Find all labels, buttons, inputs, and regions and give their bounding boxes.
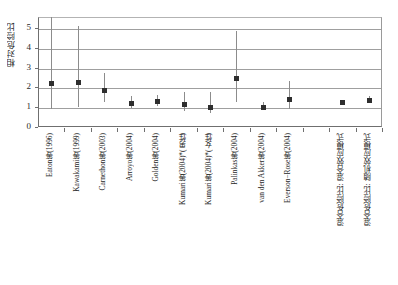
- data-point-marker: [155, 99, 160, 104]
- gridline-2: [39, 88, 381, 89]
- data-point-marker: [49, 81, 54, 86]
- data-point-marker: [182, 102, 187, 107]
- confidence-interval-bar: [236, 31, 237, 102]
- y-tick-label: 1: [17, 101, 31, 111]
- gridline-5: [39, 29, 381, 30]
- x-axis-category-label: Kumari等(2004)*(女性): [205, 133, 213, 205]
- x-axis-category-label: Golden等(2004): [152, 133, 160, 181]
- x-tick-mark: [329, 128, 330, 132]
- confidence-interval-bar: [289, 81, 290, 109]
- y-tick-mark: [35, 87, 38, 88]
- data-point-marker: [261, 105, 266, 110]
- forest-plot-chart: 相对危险比 012345 Eaton等(1996)Kawakami等(1999)…: [0, 0, 398, 285]
- x-axis-category-label: Eaton等(1996): [46, 133, 54, 177]
- x-axis-category-label: van den Akker等(2004): [258, 133, 266, 203]
- gridline-4: [39, 49, 381, 50]
- data-point-marker: [287, 97, 292, 102]
- x-tick-mark: [223, 128, 224, 132]
- y-tick-label: 4: [17, 42, 31, 52]
- x-axis-category-label: Everson−Rose等(2004): [284, 133, 292, 203]
- x-axis-category-label: Kawakami等(1999): [73, 133, 81, 192]
- x-tick-mark: [197, 128, 198, 132]
- y-tick-label: 0: [17, 121, 31, 131]
- y-tick-label: 5: [17, 22, 31, 32]
- y-tick-mark: [35, 48, 38, 49]
- x-tick-mark: [303, 128, 304, 132]
- x-axis-category-label: Arroyo等(2004): [126, 133, 134, 181]
- data-point-marker: [76, 80, 81, 85]
- x-tick-mark: [64, 128, 65, 132]
- x-tick-mark: [356, 128, 357, 132]
- y-tick-mark: [35, 127, 38, 128]
- x-tick-mark: [170, 128, 171, 132]
- confidence-interval-bar: [51, 17, 52, 109]
- x-axis-category-label: Palinkas等(2004): [231, 133, 239, 185]
- x-tick-mark: [250, 128, 251, 132]
- data-point-marker: [208, 105, 213, 110]
- y-tick-mark: [35, 28, 38, 29]
- y-tick-label: 2: [17, 81, 31, 91]
- x-axis-category-label: 混合危险比: 混合效应模式: [337, 133, 345, 226]
- x-axis-category-label: 混合危险比: 随机效应模式: [364, 133, 372, 226]
- data-point-marker: [340, 100, 345, 105]
- x-tick-mark: [276, 128, 277, 132]
- y-tick-mark: [35, 68, 38, 69]
- confidence-interval-bar: [78, 26, 79, 107]
- x-tick-mark: [117, 128, 118, 132]
- gridline-3: [39, 69, 381, 70]
- x-tick-mark: [91, 128, 92, 132]
- y-tick-label: 3: [17, 62, 31, 72]
- data-point-marker: [367, 98, 372, 103]
- data-point-marker: [129, 101, 134, 106]
- x-axis-category-label: Carnethon等(2003): [99, 133, 107, 191]
- data-point-marker: [102, 88, 107, 93]
- x-axis-category-label: Kumari等(2004)*(男性): [179, 133, 187, 205]
- y-tick-mark: [35, 107, 38, 108]
- data-point-marker: [234, 76, 239, 81]
- x-tick-mark: [144, 128, 145, 132]
- x-tick-mark: [382, 128, 383, 132]
